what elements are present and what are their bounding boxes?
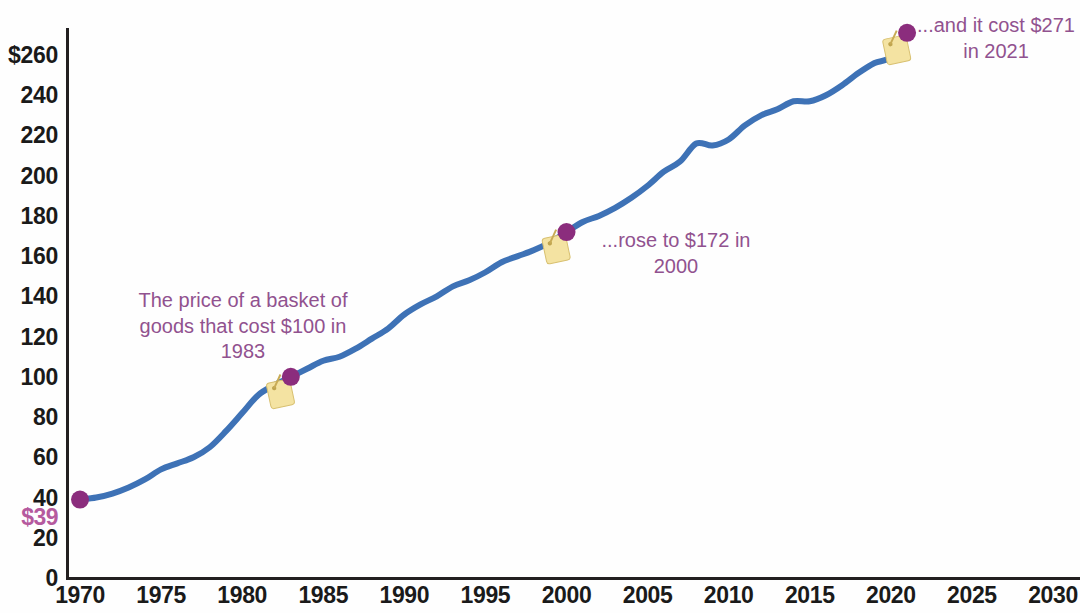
start-marker[interactable] bbox=[71, 491, 89, 509]
chart-canvas: $260240220200180160140120100806040200 19… bbox=[0, 0, 1080, 613]
marker-1983[interactable] bbox=[282, 368, 300, 386]
series-line bbox=[80, 33, 907, 500]
annotation-2000: ...rose to $172 in 2000 bbox=[578, 228, 774, 279]
marker-2000[interactable] bbox=[558, 223, 576, 241]
annotation-1983: The price of a basket of goods that cost… bbox=[118, 288, 368, 365]
annotation-2021: ...and it cost $271 in 2021 bbox=[912, 13, 1080, 64]
